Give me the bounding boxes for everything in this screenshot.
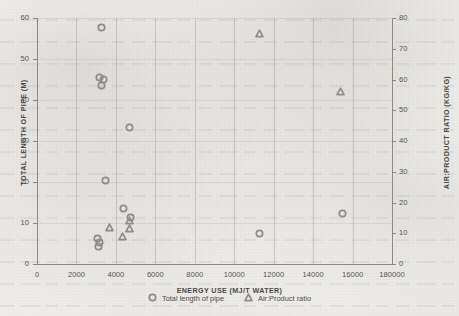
chart-legend: Total length of pipeAir:Product ratio (0, 293, 459, 303)
legend-triangle-icon (244, 293, 254, 303)
plot-area (37, 18, 392, 264)
y-axis-right-title: AIR:PRODUCT RATIO (KG/KG) (442, 58, 451, 208)
data-point-triangle[interactable] (255, 29, 264, 38)
y-axis-right-tick-mark (392, 110, 396, 111)
y-axis-right-tick-mark (392, 264, 396, 265)
y-axis-right-tick-mark (392, 18, 396, 19)
y-axis-right-tick-mark (392, 172, 396, 173)
data-point-circle[interactable] (255, 229, 264, 238)
y-axis-left-tick-mark (33, 59, 37, 60)
data-point-circle[interactable] (94, 242, 103, 251)
y-axis-right-tick-label: 20 (399, 198, 429, 207)
data-point-triangle[interactable] (105, 223, 114, 232)
gridline-horizontal (37, 59, 392, 60)
data-point-triangle[interactable] (118, 232, 127, 241)
data-point-circle[interactable] (119, 204, 128, 213)
x-axis-line (37, 264, 393, 265)
y-axis-right-tick-label: 30 (399, 167, 429, 176)
y-axis-left-tick-label: 20 (3, 177, 29, 186)
y-axis-left-tick-mark (33, 182, 37, 183)
data-point-circle[interactable] (97, 81, 106, 90)
y-axis-right-tick-label: 70 (399, 44, 429, 53)
gridline-horizontal (37, 182, 392, 183)
y-axis-right-tick-mark (392, 233, 396, 234)
legend-item-label: Total length of pipe (162, 294, 224, 303)
y-axis-right-tick-label: 10 (399, 228, 429, 237)
legend-item-label: Air:Product ratio (258, 294, 311, 303)
legend-item[interactable]: Total length of pipe (148, 293, 224, 303)
gridline-horizontal (37, 100, 392, 101)
y-axis-left-tick-mark (33, 18, 37, 19)
legend-item[interactable]: Air:Product ratio (244, 293, 311, 303)
y-axis-left-tick-mark (33, 223, 37, 224)
gridline-horizontal (37, 18, 392, 19)
y-axis-right-tick-label: 50 (399, 105, 429, 114)
y-axis-right-tick-label: 60 (399, 75, 429, 84)
data-point-circle[interactable] (97, 23, 106, 32)
y-axis-left-tick-label: 30 (3, 136, 29, 145)
x-axis-tick-label: 180000 (369, 270, 415, 279)
y-axis-left-tick-label: 0 (3, 259, 29, 268)
y-axis-right-tick-label: 0 (399, 259, 429, 268)
data-point-triangle[interactable] (336, 87, 345, 96)
y-axis-left-tick-label: 60 (3, 13, 29, 22)
gridline-horizontal (37, 141, 392, 142)
y-axis-right-tick-label: 80 (399, 13, 429, 22)
y-axis-right-tick-mark (392, 141, 396, 142)
y-axis-left-tick-mark (33, 264, 37, 265)
scatter-chart: TOTAL LENGTH OF PIPE (M) AIR:PRODUCT RAT… (0, 0, 459, 316)
y-axis-right-tick-mark (392, 49, 396, 50)
legend-circle-icon (148, 293, 158, 303)
y-axis-right-tick-label: 40 (399, 136, 429, 145)
y-axis-left-tick-label: 10 (3, 218, 29, 227)
data-point-circle[interactable] (338, 209, 347, 218)
y-axis-left-tick-label: 50 (3, 54, 29, 63)
data-point-circle[interactable] (125, 123, 134, 132)
y-axis-left-tick-mark (33, 141, 37, 142)
y-axis-right-tick-mark (392, 203, 396, 204)
y-axis-right-tick-mark (392, 80, 396, 81)
data-point-circle[interactable] (101, 176, 110, 185)
y-axis-left-tick-label: 40 (3, 95, 29, 104)
gridline-horizontal (37, 223, 392, 224)
y-axis-left-tick-mark (33, 100, 37, 101)
data-point-triangle[interactable] (125, 224, 134, 233)
